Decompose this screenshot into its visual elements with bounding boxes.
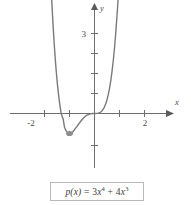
formula-argument: (x) — [70, 188, 81, 198]
x-axis-arrow-icon — [166, 110, 174, 117]
function-graph-figure: -2 2 3 x y p(x) = 3x4 + 4x3 — [0, 0, 191, 205]
y-axis-name-label: y — [99, 3, 104, 13]
formula-term2-exponent: 3 — [125, 185, 128, 192]
local-minimum-point — [66, 131, 73, 136]
formula-equals: = — [82, 188, 93, 198]
y-axis-arrow-icon — [91, 3, 98, 10]
y-tick-label-3: 3 — [82, 29, 87, 39]
y-axis — [91, 3, 98, 168]
formula-caption-box: p(x) = 3x4 + 4x3 — [50, 182, 144, 201]
x-tick-label-minus2: -2 — [27, 118, 35, 128]
graph-canvas: -2 2 3 x y — [0, 0, 191, 175]
formula-text: p(x) = 3x4 + 4x3 — [65, 185, 128, 197]
formula-plus: + — [105, 188, 116, 198]
x-tick-label-plus2: 2 — [143, 118, 148, 128]
plot-area: -2 2 3 x y — [0, 0, 191, 175]
x-axis-name-label: x — [174, 97, 179, 107]
